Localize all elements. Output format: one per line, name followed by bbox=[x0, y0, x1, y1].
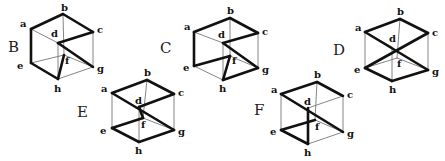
vertex-label-f: f bbox=[232, 55, 237, 66]
thick-edge-eh bbox=[365, 68, 392, 81]
cube-f: abcdefghF bbox=[254, 69, 354, 158]
thick-edge-ef bbox=[112, 118, 143, 128]
vertex-label-b: b bbox=[61, 2, 68, 13]
vertex-label-a: a bbox=[355, 22, 362, 33]
cube-label: D bbox=[333, 41, 345, 59]
thick-edge-bc bbox=[63, 14, 93, 32]
vertex-label-h: h bbox=[219, 83, 227, 94]
cube-d: abcdefghD bbox=[333, 6, 439, 95]
thin-edge-eh bbox=[194, 66, 223, 80]
thick-edge-cd bbox=[223, 33, 258, 43]
cube-b: abcdefghB bbox=[8, 2, 104, 94]
vertex-label-e: e bbox=[17, 60, 23, 71]
vertex-label-c: c bbox=[97, 24, 103, 35]
thin-edge-hg bbox=[308, 132, 343, 144]
vertex-label-f: f bbox=[315, 121, 320, 132]
cube-label: C bbox=[160, 39, 171, 57]
thick-edge-hg bbox=[223, 68, 258, 80]
thin-edge-hg bbox=[58, 67, 93, 79]
vertex-label-e: e bbox=[270, 126, 276, 137]
cube-label: F bbox=[254, 101, 264, 119]
cube-label: B bbox=[8, 38, 19, 56]
vertex-label-h: h bbox=[304, 147, 312, 158]
vertex-label-f: f bbox=[65, 55, 70, 66]
thick-edge-ab bbox=[365, 19, 400, 32]
cube-diagram: abcdefghBabcdefghCabcdefghDabcdefghEabcd… bbox=[0, 0, 445, 161]
thick-edge-cd bbox=[139, 94, 174, 107]
vertex-label-e: e bbox=[354, 64, 360, 75]
vertex-label-g: g bbox=[97, 63, 104, 74]
thick-edge-hg bbox=[139, 130, 174, 142]
vertex-label-h: h bbox=[389, 84, 397, 95]
thick-edge-bc bbox=[400, 19, 428, 33]
vertex-label-a: a bbox=[20, 18, 27, 29]
vertex-label-b: b bbox=[314, 69, 321, 80]
cube-c: abcdefghC bbox=[160, 5, 269, 94]
vertex-label-g: g bbox=[178, 126, 185, 137]
thin-edge-dc bbox=[308, 96, 343, 108]
thick-edge-ef bbox=[281, 120, 315, 130]
cube-e: abcdefghE bbox=[77, 67, 185, 156]
vertex-label-b: b bbox=[144, 67, 151, 78]
thick-edge-eh bbox=[31, 63, 58, 79]
vertex-label-h: h bbox=[54, 83, 62, 94]
thick-edge-ef bbox=[194, 56, 230, 66]
vertex-label-g: g bbox=[262, 64, 269, 75]
thick-edge-ab bbox=[31, 14, 63, 29]
vertex-label-f: f bbox=[141, 119, 146, 130]
thick-edge-bc bbox=[317, 82, 343, 96]
vertex-label-c: c bbox=[347, 89, 353, 100]
vertex-label-d: d bbox=[218, 29, 225, 40]
thick-edge-hf bbox=[58, 55, 64, 79]
vertex-label-e: e bbox=[100, 125, 106, 136]
vertex-label-a: a bbox=[271, 84, 278, 95]
cubes-layer: abcdefghBabcdefghCabcdefghDabcdefghEabcd… bbox=[8, 2, 439, 158]
vertex-label-a: a bbox=[184, 21, 191, 32]
thin-edge-bf bbox=[63, 14, 64, 55]
vertex-label-d: d bbox=[135, 95, 142, 106]
vertex-label-f: f bbox=[397, 58, 402, 69]
thick-edge-ab bbox=[281, 82, 317, 94]
thick-edge-eh bbox=[281, 130, 308, 144]
vertex-label-h: h bbox=[135, 145, 143, 156]
vertex-label-c: c bbox=[178, 87, 184, 98]
thick-edge-ab bbox=[112, 80, 147, 93]
cube-label: E bbox=[77, 103, 88, 121]
vertex-label-d: d bbox=[51, 28, 58, 39]
vertex-label-b: b bbox=[397, 6, 404, 17]
vertex-label-c: c bbox=[432, 27, 438, 38]
vertex-label-c: c bbox=[262, 26, 268, 37]
thick-edge-bc bbox=[147, 80, 174, 94]
vertex-label-d: d bbox=[304, 96, 311, 107]
vertex-label-d: d bbox=[389, 33, 396, 44]
vertex-label-e: e bbox=[183, 62, 189, 73]
vertex-label-g: g bbox=[347, 128, 354, 139]
vertex-label-g: g bbox=[432, 66, 439, 77]
thick-edge-eh bbox=[112, 128, 139, 142]
thin-edge-ef bbox=[31, 55, 64, 63]
thick-edge-bc bbox=[230, 18, 258, 33]
vertex-label-b: b bbox=[227, 5, 234, 16]
thick-edge-hg bbox=[392, 70, 428, 81]
thick-edge-fh bbox=[223, 56, 230, 80]
vertex-label-a: a bbox=[101, 83, 108, 94]
